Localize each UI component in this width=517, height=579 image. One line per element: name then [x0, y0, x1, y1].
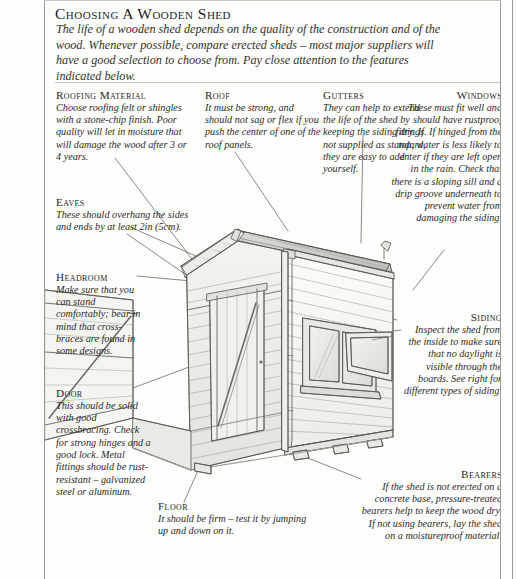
- callout-body: It must be strong, and should not sag or…: [205, 102, 321, 151]
- callout-body: Choose roofing felt or shingles with a s…: [56, 102, 188, 163]
- header-divider: [55, 82, 500, 83]
- callout-body: These should overhang the sides and ends…: [56, 209, 196, 234]
- callout-heading: Eaves: [56, 196, 196, 208]
- callout-heading: Roofing Material: [56, 89, 188, 101]
- callout-body: If the shed is not erected on a concrete…: [358, 481, 500, 542]
- page-title: Choosing a Wooden Shed: [55, 5, 231, 23]
- intro-paragraph: The life of a wooden shed depends on the…: [56, 22, 448, 84]
- callout-heading: Bearers: [358, 468, 500, 480]
- frame-rule-right-outer: [512, 0, 513, 579]
- page-root: Choosing a Wooden Shed The life of a woo…: [0, 0, 517, 579]
- callout-heading: Roof: [205, 89, 321, 101]
- callout-bearers: Bearers If the shed is not erected on a …: [358, 468, 500, 542]
- article-content: Choosing a Wooden Shed The life of a woo…: [45, 0, 500, 579]
- callout-heading: Door: [56, 387, 152, 399]
- callout-windows: Windows These must fit well and should h…: [390, 89, 500, 225]
- callout-door: Door This should be solid with good cros…: [56, 387, 152, 498]
- frame-rule-right-inner: [500, 0, 501, 579]
- callout-roof: Roof It must be strong, and should not s…: [205, 89, 321, 151]
- callout-heading: Windows: [390, 89, 500, 101]
- callout-headroom: Headroom Make sure that you can stand co…: [56, 271, 144, 358]
- callout-eaves: Eaves These should overhang the sides an…: [56, 196, 196, 233]
- callout-heading: Floor: [158, 500, 318, 512]
- callout-floor: Floor It should be firm – test it by jum…: [158, 500, 318, 537]
- callout-roofing-material: Roofing Material Choose roofing felt or …: [56, 89, 188, 163]
- callout-body: These must fit well and should have rust…: [390, 102, 500, 225]
- callout-body: It should be firm – test it by jumping u…: [158, 513, 318, 538]
- callout-body: Make sure that you can stand comfortably…: [56, 284, 144, 358]
- callout-heading: Headroom: [56, 271, 144, 283]
- callout-body: This should be solid with good crossbrac…: [56, 400, 152, 498]
- callout-body: Inspect the shed from the inside to make…: [400, 324, 500, 398]
- callout-heading: Siding: [400, 311, 500, 323]
- callout-siding: Siding Inspect the shed from the inside …: [400, 311, 500, 398]
